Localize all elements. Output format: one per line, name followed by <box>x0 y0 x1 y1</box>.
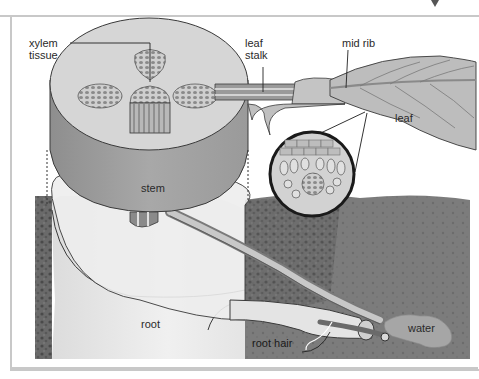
label-xylem-line1: xylem <box>29 37 58 49</box>
label-leaf: leaf <box>395 112 413 124</box>
label-stem: stem <box>141 182 165 194</box>
label-water: water <box>408 322 435 334</box>
label-leaf-stalk: leaf stalk <box>245 37 268 61</box>
label-xylem-tissue: xylem tissue <box>29 37 58 61</box>
label-mid-rib: mid rib <box>342 37 375 49</box>
label-root-hair: root hair <box>252 337 292 349</box>
leaf-blade <box>330 56 476 150</box>
label-xylem-line2: tissue <box>29 49 58 61</box>
label-root: root <box>141 318 160 330</box>
label-leaf-stalk-line2: stalk <box>245 49 268 61</box>
label-leaf-stalk-line1: leaf <box>245 37 268 49</box>
